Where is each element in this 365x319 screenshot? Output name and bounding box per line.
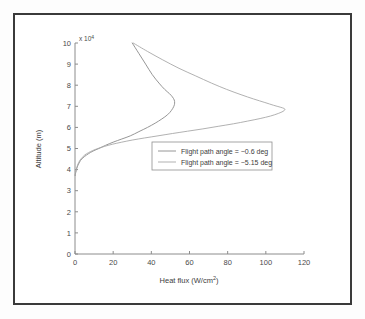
x-tick-label: 20	[109, 258, 117, 267]
screenshot-root: 012345678910 020406080100120 x 104 Heat …	[0, 0, 365, 319]
legend-label-1: Flight path angle = −5.15 deg	[181, 159, 272, 167]
y-axis-exponent: x 104	[79, 34, 94, 43]
x-tick-label: 40	[147, 258, 155, 267]
y-tick-label: 3	[67, 186, 71, 195]
figure-border: 012345678910 020406080100120 x 104 Heat …	[13, 13, 352, 305]
y-tick-label: 8	[67, 81, 71, 90]
x-tick-label: 60	[185, 258, 193, 267]
x-tick-label: 0	[73, 258, 77, 267]
x-tick-label: 80	[223, 258, 231, 267]
y-tick-label: 7	[67, 102, 71, 111]
x-axis-title: Heat flux (W/cm2)	[160, 275, 219, 285]
y-tick-label: 9	[67, 60, 71, 69]
chart-canvas: 012345678910 020406080100120 x 104 Heat …	[15, 15, 354, 307]
y-tick-label: 5	[67, 144, 71, 153]
y-tick-label: 4	[67, 165, 71, 174]
y-axis-title: Altitude (m)	[34, 129, 43, 168]
y-axis-ticks: 012345678910	[63, 39, 78, 259]
y-tick-label: 10	[63, 39, 71, 48]
legend: Flight path angle = −0.6 deg Flight path…	[152, 142, 272, 170]
matlab-plot: 012345678910 020406080100120 x 104 Heat …	[15, 15, 354, 307]
x-axis-ticks: 020406080100120	[73, 251, 310, 267]
x-tick-label: 120	[298, 258, 311, 267]
x-tick-label: 100	[260, 258, 273, 267]
y-tick-label: 1	[67, 229, 71, 238]
y-tick-label: 0	[67, 250, 71, 259]
legend-box	[152, 142, 272, 170]
y-tick-label: 2	[67, 208, 71, 217]
legend-label-0: Flight path angle = −0.6 deg	[181, 148, 268, 156]
y-tick-label: 6	[67, 123, 71, 132]
